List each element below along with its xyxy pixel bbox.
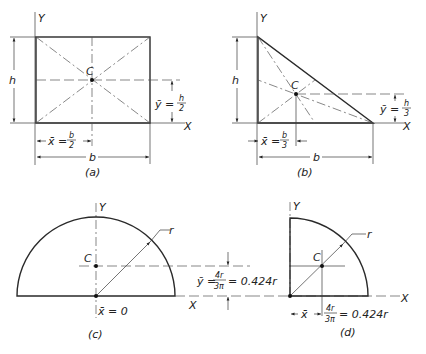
- ybar-num: h: [404, 99, 409, 108]
- base-label: b: [313, 151, 320, 164]
- ybar-den: 3: [404, 109, 409, 118]
- figure-b-triangle: Y X C h ȳ = h 3 x̄ = b 3: [232, 12, 411, 179]
- ybar-lhs: ȳ =: [154, 98, 174, 111]
- ybar-den: 2: [179, 104, 184, 113]
- ybar-rhs: = 0.424r: [228, 275, 278, 288]
- xbar-num: b: [282, 131, 287, 140]
- radius-label: r: [367, 228, 373, 241]
- figure-a-rectangle: Y X C h ȳ = h 2 x̄ = b 2: [9, 12, 192, 179]
- y-axis-label: Y: [293, 200, 301, 213]
- height-label: h: [9, 74, 16, 87]
- xbar-den: 3π: [325, 315, 335, 324]
- origin-dot: [288, 294, 292, 298]
- xbar-lhs: x̄ =: [260, 135, 280, 148]
- centroid-dot: [294, 92, 298, 96]
- height-label: h: [232, 74, 239, 87]
- y-axis-label: Y: [38, 12, 46, 25]
- caption-c: (c): [88, 328, 103, 341]
- centroid-label: C: [291, 79, 299, 92]
- xbar-den: 3: [282, 141, 287, 150]
- y-axis-label: Y: [99, 201, 107, 214]
- centroid-label: C: [84, 252, 92, 265]
- xbar-rhs: = 0.424r: [339, 308, 389, 321]
- centroid-label: C: [86, 65, 94, 78]
- figure-c-semicircle: Y r C X x̄ = 0 ȳ = 4r 3π = 0.424r (c): [17, 201, 278, 341]
- centroid-dot: [94, 264, 98, 268]
- xbar-label: x̄ = 0: [97, 305, 128, 318]
- x-axis-label: X: [183, 120, 192, 133]
- ybar-den: 3π: [214, 282, 224, 291]
- caption-a: (a): [85, 166, 100, 179]
- ybar-num: 4r: [215, 271, 224, 280]
- xbar-lhs: x̄ =: [47, 135, 67, 148]
- y-axis-label: Y: [260, 12, 268, 25]
- ybar-lhs: ȳ =: [379, 103, 399, 116]
- centroid-diagram: Y X C h ȳ = h 2 x̄ = b 2: [0, 0, 426, 354]
- caption-d: (d): [340, 326, 356, 339]
- x-axis-label: X: [188, 299, 197, 312]
- centroid-dot: [320, 264, 324, 268]
- xbar-num: 4r: [326, 304, 335, 313]
- caption-b: (b): [297, 166, 313, 179]
- ybar-num: h: [179, 94, 184, 103]
- base-label: b: [89, 151, 96, 164]
- xbar-num: b: [69, 131, 74, 140]
- centroid-label: C: [313, 251, 321, 264]
- xbar-lhs: x̄: [300, 308, 308, 321]
- x-axis-label: X: [402, 120, 411, 133]
- xbar-den: 2: [69, 141, 74, 150]
- centroid-dot: [90, 78, 94, 82]
- radius-label: r: [169, 224, 175, 237]
- origin-dot: [94, 294, 98, 298]
- figure-d-quarter-circle: Y X r C x̄ 4r 3π = 0.424r (d): [250, 200, 409, 339]
- x-axis-label: X: [400, 292, 409, 305]
